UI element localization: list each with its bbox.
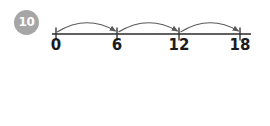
jump-arc-0-to-6 xyxy=(57,23,116,32)
jump-arc-12-to-18 xyxy=(181,23,239,32)
worksheet-page: 10 0 6 12 18 6 × xyxy=(0,0,270,126)
equation-row: 6 × = xyxy=(0,68,270,124)
number-line-diagram: 0 6 12 18 xyxy=(0,0,270,60)
tick-label-6: 6 xyxy=(97,36,137,54)
tick-label-18: 18 xyxy=(220,36,260,54)
jump-arc-6-to-12 xyxy=(119,23,178,32)
tick-label-12: 12 xyxy=(159,36,199,54)
tick-label-0: 0 xyxy=(36,36,76,54)
